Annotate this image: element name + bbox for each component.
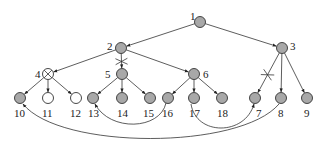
edge-4-to-10 xyxy=(25,78,44,95)
edge-2-to-6 xyxy=(126,50,188,72)
node-label: 7 xyxy=(256,107,262,119)
edge-2-to-5 xyxy=(121,53,122,68)
filled-circle-icon xyxy=(250,93,261,104)
edge-6-to-18 xyxy=(198,78,217,95)
node-17: 17 xyxy=(189,93,201,120)
node-9: 9 xyxy=(302,93,313,120)
node-5: 5 xyxy=(105,68,128,80)
filled-circle-icon xyxy=(276,93,287,104)
filled-circle-icon xyxy=(117,69,128,80)
node-15: 15 xyxy=(143,93,156,120)
filled-circle-icon xyxy=(189,69,200,80)
filled-circle-icon xyxy=(189,93,200,104)
node-4: 4 xyxy=(35,68,54,80)
node-2: 2 xyxy=(107,40,127,54)
node-label: 2 xyxy=(107,40,113,52)
node-label: 5 xyxy=(105,68,111,80)
node-label: 8 xyxy=(278,107,284,119)
filled-circle-icon xyxy=(163,93,174,104)
filled-circle-icon xyxy=(15,93,26,104)
filled-circle-icon xyxy=(302,93,313,104)
node-label: 18 xyxy=(217,107,229,119)
node-label: 1 xyxy=(190,10,196,22)
edge-3-to-8 xyxy=(281,53,282,92)
node-label: 14 xyxy=(117,107,129,119)
filled-circle-icon xyxy=(88,93,99,104)
filled-circle-icon xyxy=(116,43,127,54)
filled-circle-icon xyxy=(117,93,128,104)
edges-layer xyxy=(25,24,305,95)
filled-circle-icon xyxy=(217,93,228,104)
filled-circle-icon xyxy=(277,43,288,54)
empty-circle-icon xyxy=(71,93,82,104)
edge-5-to-15 xyxy=(126,78,145,95)
node-label: 4 xyxy=(35,68,41,80)
edge-3-to-7 xyxy=(258,53,280,93)
edge-3-to-9 xyxy=(284,53,304,93)
filled-circle-icon xyxy=(145,93,156,104)
node-label: 6 xyxy=(203,68,209,80)
edge-1-to-2 xyxy=(127,24,195,46)
node-10: 10 xyxy=(14,93,26,120)
node-18: 18 xyxy=(217,93,229,120)
node-label: 15 xyxy=(143,107,155,119)
node-label: 17 xyxy=(189,107,201,119)
edge-4-to-12 xyxy=(52,78,71,95)
cross-link-16-to-13 xyxy=(95,103,166,124)
node-3: 3 xyxy=(277,40,297,54)
node-12: 12 xyxy=(70,93,82,120)
node-11: 11 xyxy=(42,93,54,120)
nodes-layer: 123456789101112131415161718 xyxy=(14,10,313,119)
node-14: 14 xyxy=(117,93,129,120)
edge-6-to-16 xyxy=(172,78,190,94)
node-label: 3 xyxy=(290,40,296,52)
node-label: 10 xyxy=(14,107,26,119)
node-7: 7 xyxy=(250,93,263,120)
empty-circle-icon xyxy=(43,93,54,104)
edge-1-to-3 xyxy=(205,24,276,47)
edge-5-to-13 xyxy=(98,78,118,95)
filled-circle-icon xyxy=(195,17,206,28)
node-16: 16 xyxy=(162,93,174,120)
node-label: 12 xyxy=(70,107,81,119)
node-label: 11 xyxy=(42,107,53,119)
node-13: 13 xyxy=(88,93,100,120)
node-label: 16 xyxy=(162,107,174,119)
node-label: 9 xyxy=(304,107,310,119)
tree-diagram: 123456789101112131415161718 xyxy=(0,0,327,154)
node-label: 13 xyxy=(88,107,100,119)
